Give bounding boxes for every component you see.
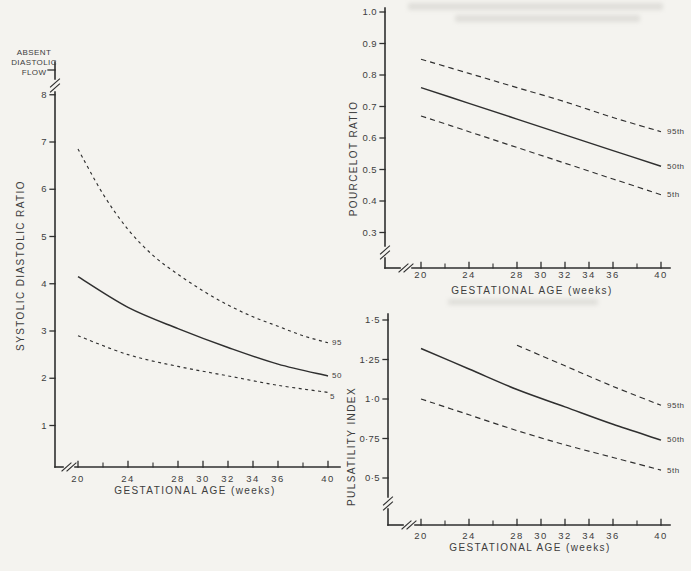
x-tick-label: 24 bbox=[462, 530, 476, 541]
x-tick-label: 36 bbox=[271, 473, 285, 484]
x-tick-label: 24 bbox=[462, 269, 476, 280]
x-axis-label: GESTATIONAL AGE (weeks) bbox=[410, 542, 650, 553]
figure-page: 876543212024283032343640 ABSENT DIASTOLI… bbox=[0, 0, 691, 571]
y-axis-label: POURCELOT RATIO bbox=[348, 84, 359, 234]
y-tick-label: 0·75 bbox=[359, 433, 380, 444]
x-tick-label: 40 bbox=[321, 473, 335, 484]
y-tick-label: 0.6 bbox=[363, 132, 377, 143]
series-label-95th-percentile: 95th bbox=[667, 127, 685, 136]
series-line-50th-percentile bbox=[421, 88, 661, 167]
x-tick-label: 20 bbox=[414, 269, 428, 280]
x-tick-label: 30 bbox=[534, 530, 548, 541]
x-tick-label: 32 bbox=[221, 473, 235, 484]
series-label-50th-percentile: 50th bbox=[667, 162, 685, 171]
x-tick-label: 30 bbox=[534, 269, 548, 280]
y-tick-label: 0.7 bbox=[363, 101, 377, 112]
series-line-95th-percentile bbox=[517, 345, 661, 405]
sd-ratio-plot: 876543212024283032343640 bbox=[0, 30, 350, 495]
annotation-line: ABSENT bbox=[2, 48, 66, 58]
series-line-5-percentile bbox=[78, 336, 328, 393]
chart-pulsatility-index: 1·51·251·00·750·52024283032343640 PULSAT… bbox=[340, 300, 691, 565]
series-line-95-percentile bbox=[78, 149, 328, 343]
pourcelot-ratio-plot: 1.00.90.80.70.60.50.40.32024283032343640 bbox=[340, 0, 691, 295]
y-tick-label: 1·25 bbox=[359, 354, 380, 365]
x-tick-label: 28 bbox=[171, 473, 185, 484]
y-tick-label: 3 bbox=[41, 325, 47, 336]
series-label-5th-percentile: 5 bbox=[330, 392, 335, 401]
x-tick-label: 34 bbox=[582, 530, 596, 541]
y-tick-label: 0.4 bbox=[363, 195, 377, 206]
series-label-95th-percentile: 95th bbox=[667, 401, 685, 410]
x-tick-label: 28 bbox=[510, 530, 524, 541]
y-tick-label: 6 bbox=[41, 183, 47, 194]
annotation-line: FLOW bbox=[2, 68, 66, 78]
x-tick-label: 30 bbox=[196, 473, 210, 484]
y-tick-label: 5 bbox=[41, 231, 47, 242]
chart-pourcelot-ratio: 1.00.90.80.70.60.50.40.32024283032343640… bbox=[340, 0, 691, 305]
chart-systolic-diastolic-ratio: 876543212024283032343640 ABSENT DIASTOLI… bbox=[0, 30, 350, 515]
x-tick-label: 28 bbox=[510, 269, 524, 280]
pulsatility-index-plot: 1·51·251·00·750·52024283032343640 bbox=[340, 300, 691, 550]
y-tick-label: 0.3 bbox=[363, 227, 377, 238]
x-tick-label: 32 bbox=[558, 269, 572, 280]
x-axis-label: GESTATIONAL AGE (weeks) bbox=[65, 485, 325, 496]
x-tick-label: 34 bbox=[582, 269, 596, 280]
y-tick-label: 0.5 bbox=[363, 164, 377, 175]
y-tick-label: 1 bbox=[41, 420, 47, 431]
x-tick-label: 36 bbox=[606, 530, 620, 541]
series-line-5th-percentile bbox=[421, 399, 661, 470]
y-axis-label: SYSTOLIC DIASTOLIC RATIO bbox=[15, 156, 26, 376]
y-tick-label: 0.9 bbox=[363, 38, 377, 49]
series-label-50th-percentile: 50th bbox=[667, 435, 685, 444]
y-axis-label: PULSATILITY INDEX bbox=[346, 367, 357, 527]
y-tick-label: 1·0 bbox=[365, 393, 380, 404]
x-tick-label: 32 bbox=[558, 530, 572, 541]
y-tick-label: 2 bbox=[41, 372, 47, 383]
series-line-50-percentile bbox=[78, 277, 328, 376]
y-tick-label: 0.8 bbox=[363, 69, 377, 80]
x-tick-label: 24 bbox=[121, 473, 135, 484]
x-tick-label: 40 bbox=[654, 269, 668, 280]
x-tick-label: 20 bbox=[414, 530, 428, 541]
x-tick-label: 20 bbox=[71, 473, 85, 484]
y-tick-label: 7 bbox=[41, 136, 47, 147]
x-axis-label: GESTATIONAL AGE (weeks) bbox=[412, 285, 652, 296]
annotation-line: DIASTOLIC bbox=[2, 58, 66, 68]
y-tick-label: 4 bbox=[41, 278, 47, 289]
series-label-5th-percentile: 5th bbox=[667, 190, 680, 199]
x-tick-label: 34 bbox=[246, 473, 260, 484]
series-label-5th-percentile: 5th bbox=[667, 466, 680, 475]
y-tick-label: 1.0 bbox=[363, 6, 377, 17]
series-line-95th-percentile bbox=[421, 59, 661, 131]
x-tick-label: 36 bbox=[606, 269, 620, 280]
y-tick-label: 8 bbox=[41, 89, 47, 100]
x-tick-label: 40 bbox=[654, 530, 668, 541]
y-tick-label: 0·5 bbox=[365, 472, 380, 483]
series-line-50th-percentile bbox=[421, 348, 661, 440]
absent-diastolic-flow-annotation: ABSENT DIASTOLIC FLOW bbox=[2, 48, 66, 78]
y-tick-label: 1·5 bbox=[365, 314, 380, 325]
